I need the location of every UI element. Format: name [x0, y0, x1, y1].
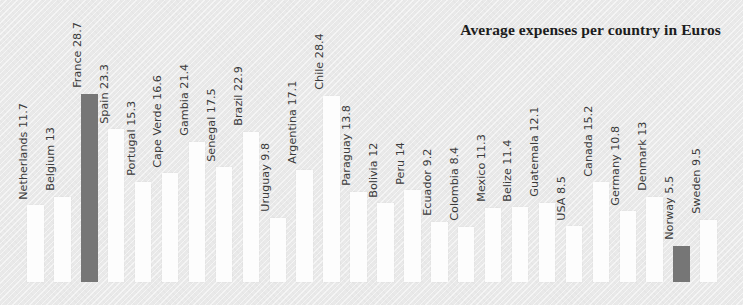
bar-group[interactable]: Germany 10.8	[620, 0, 637, 282]
bar-group[interactable]: Peru 14	[404, 0, 421, 282]
bar[interactable]	[620, 211, 637, 282]
bar-label: Gambia 21.4	[180, 64, 192, 136]
bar[interactable]	[539, 203, 556, 282]
bar-group[interactable]: Senegal 17.5	[216, 0, 233, 282]
bar-label: Chile 28.4	[314, 34, 326, 90]
bar-label: Peru 14	[395, 142, 407, 185]
bar-group[interactable]: Belgium 13	[54, 0, 71, 282]
bar-group[interactable]: Cape Verde 16.6	[162, 0, 179, 282]
bar-group[interactable]: Paraguay 13.8	[350, 0, 367, 282]
bar-label: Sweden 9.5	[691, 148, 703, 214]
bar[interactable]	[243, 132, 260, 282]
bar[interactable]	[54, 197, 71, 282]
bar-label: Belize 11.4	[503, 139, 515, 201]
bar-label: Belgium 13	[45, 127, 57, 191]
bar-group[interactable]: Ecuador 9.2	[431, 0, 448, 282]
bar-label: Norway 5.5	[664, 176, 676, 240]
bar-group[interactable]: Uruguay 9.8	[270, 0, 287, 282]
bar-group[interactable]: Sweden 9.5	[700, 0, 717, 282]
bar[interactable]	[81, 94, 98, 282]
bar-group[interactable]: USA 8.5	[566, 0, 583, 282]
bar-group[interactable]: Colombia 8.4	[458, 0, 475, 282]
bar-label: Mexico 11.3	[476, 134, 488, 202]
bar[interactable]	[270, 218, 287, 282]
bar-group[interactable]: Gambia 21.4	[189, 0, 206, 282]
bar-label: Senegal 17.5	[207, 88, 219, 162]
bar[interactable]	[700, 220, 717, 282]
bar-label: Canada 15.2	[584, 105, 596, 176]
bar[interactable]	[296, 170, 313, 282]
bar-label: Denmark 13	[637, 122, 649, 191]
bar[interactable]	[566, 226, 583, 282]
bar-group[interactable]: Portugal 15.3	[135, 0, 152, 282]
plot-area: Netherlands 11.7Belgium 13France 28.7Spa…	[0, 0, 743, 282]
bar-label: Guatemala 12.1	[530, 107, 542, 197]
bar-label: Portugal 15.3	[126, 101, 138, 176]
bar[interactable]	[162, 173, 179, 282]
bar-group[interactable]: Belize 11.4	[512, 0, 529, 282]
bar-group[interactable]: Denmark 13	[646, 0, 663, 282]
bar-group[interactable]: Spain 23.3	[108, 0, 125, 282]
bar-label: USA 8.5	[557, 176, 569, 221]
bar-group[interactable]: Chile 28.4	[323, 0, 340, 282]
bar-label: Colombia 8.4	[449, 147, 461, 221]
bar-label: Germany 10.8	[610, 125, 622, 205]
bar-group[interactable]: Canada 15.2	[593, 0, 610, 282]
bar-label: France 28.7	[72, 22, 84, 88]
bar[interactable]	[458, 227, 475, 282]
bar-label: Bolivia 12	[368, 142, 380, 197]
bar-group[interactable]: Bolivia 12	[377, 0, 394, 282]
bar[interactable]	[512, 207, 529, 282]
bar[interactable]	[485, 208, 502, 282]
bar[interactable]	[189, 142, 206, 282]
bar-group[interactable]: Brazil 22.9	[243, 0, 260, 282]
bar-label: Brazil 22.9	[234, 66, 246, 126]
bar[interactable]	[377, 203, 394, 282]
bar-label: Netherlands 11.7	[18, 103, 30, 200]
bar-chart: Average expenses per country in Euros Ne…	[0, 0, 743, 305]
bar[interactable]	[27, 205, 44, 282]
bar[interactable]	[646, 197, 663, 282]
bar-group[interactable]: Netherlands 11.7	[27, 0, 44, 282]
bar-label: Paraguay 13.8	[341, 105, 353, 186]
bar-group[interactable]: Guatemala 12.1	[539, 0, 556, 282]
bar[interactable]	[593, 182, 610, 282]
bar[interactable]	[673, 246, 690, 282]
bar-label: Ecuador 9.2	[422, 149, 434, 216]
bar-group[interactable]: Argentina 17.1	[296, 0, 313, 282]
bar-group[interactable]: Mexico 11.3	[485, 0, 502, 282]
bar-group[interactable]: France 28.7	[81, 0, 98, 282]
bar-label: Uruguay 9.8	[260, 143, 272, 212]
bar[interactable]	[404, 190, 421, 282]
bar[interactable]	[108, 129, 125, 282]
bar-label: Argentina 17.1	[287, 81, 299, 164]
bar-group[interactable]: Norway 5.5	[673, 0, 690, 282]
bar[interactable]	[135, 182, 152, 282]
bar-label: Spain 23.3	[99, 64, 111, 124]
bar[interactable]	[323, 96, 340, 282]
bar[interactable]	[431, 222, 448, 282]
bar-label: Cape Verde 16.6	[153, 75, 165, 168]
bar[interactable]	[350, 192, 367, 282]
bar[interactable]	[216, 167, 233, 282]
